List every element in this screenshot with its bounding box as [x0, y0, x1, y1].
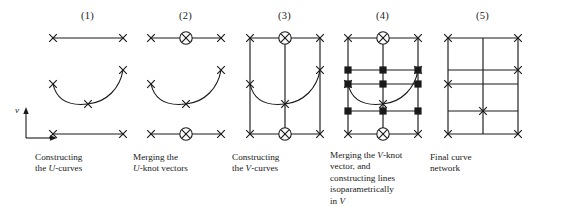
panel-2-caption: Merging the U-knot vectors: [133, 152, 238, 175]
panel-3-caption-line-1: Constructing: [232, 152, 279, 162]
panel-1-number: (1): [35, 10, 140, 21]
panel-1-art: [35, 26, 140, 146]
panel-merging-u-knot-vectors: (2): [133, 0, 238, 215]
panel-final-curve-network: (5): [430, 0, 535, 215]
panel-merging-v-knot-vector: (4): [330, 0, 442, 215]
panel-5-caption-line-1: Final curve: [430, 152, 472, 162]
merged-knot-circles: [180, 32, 192, 140]
panel-4-caption-line-2: vector, and: [330, 161, 370, 171]
panel-2-number: (2): [133, 10, 238, 21]
panel-1-caption-line-2: the U-curves: [35, 163, 82, 173]
knot-marks: [49, 34, 127, 138]
panel-2-caption-line-1: Merging the: [133, 152, 178, 162]
panel-4-number: (4): [330, 10, 435, 21]
v-axis-label: v: [15, 105, 19, 115]
panel-2-caption-line-2: U-knot vectors: [133, 163, 188, 173]
panel-4-caption-line-5: in V: [330, 196, 345, 206]
panel-5-caption-line-2: network: [430, 163, 460, 173]
u-curve-middle: [53, 70, 123, 104]
curve-network-figure: v (1): [0, 0, 563, 215]
panel-constructing-v-curves: (3): [232, 0, 337, 215]
panel-5-number: (5): [430, 10, 535, 21]
panel-2-art: [133, 26, 238, 146]
panel-5-caption: Final curve network: [430, 152, 535, 175]
panel-constructing-u-curves: (1) Constructing: [35, 0, 140, 215]
panel-4-caption: Merging the V-knot vector, and construct…: [330, 150, 442, 207]
panel-4-caption-line-4: isoparametrically: [330, 184, 394, 194]
panel-4-caption-line-1: Merging the V-knot: [330, 150, 402, 160]
u-curve-middle: [151, 70, 221, 104]
panel-1-caption-line-1: Constructing: [35, 152, 82, 162]
panel-3-number: (3): [232, 10, 337, 21]
knot-marks: [147, 34, 225, 138]
panel-3-caption-line-2: the V-curves: [232, 163, 278, 173]
panel-1-caption: Constructing the U-curves: [35, 152, 140, 175]
panel-4-caption-line-3: constructing lines: [330, 173, 395, 183]
panel-3-art: [232, 26, 337, 146]
panel-3-caption: Constructing the V-curves: [232, 152, 337, 175]
panel-4-art: [330, 26, 442, 146]
panel-5-art: [430, 26, 535, 146]
